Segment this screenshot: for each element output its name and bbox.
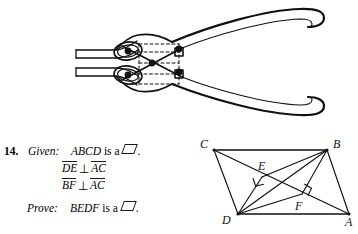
upper-handle-inner bbox=[182, 19, 312, 48]
pivot-dot-lower-left bbox=[125, 72, 132, 79]
given-condition-2: BF⊥AC bbox=[62, 178, 105, 192]
diagonal-BD bbox=[238, 150, 327, 214]
vertex-dot-D bbox=[236, 212, 239, 215]
parallelogram-svg: C B D A E F bbox=[196, 132, 358, 234]
prove-period: . bbox=[136, 202, 139, 214]
prove-is-a-text: is a bbox=[102, 202, 118, 214]
given-subject: ABCD bbox=[71, 145, 101, 157]
pivot-dot-upper-left bbox=[125, 48, 132, 55]
vertex-dot-C bbox=[212, 148, 215, 151]
segment-ac-1: AC bbox=[91, 161, 106, 174]
side-BA bbox=[327, 150, 349, 214]
upper-handle-outer bbox=[172, 9, 324, 42]
parallelogram-diagram: C B D A E F bbox=[196, 132, 358, 234]
perp-symbol-1: ⊥ bbox=[77, 162, 91, 176]
prove-statement: BEDF is a . bbox=[70, 202, 139, 214]
point-label-F: F bbox=[294, 199, 303, 213]
segment-FD bbox=[238, 194, 302, 214]
textbook-problem-page: 14. Given: ABCD is a . DE⊥AC BF⊥AC Prove… bbox=[0, 0, 358, 234]
altitude-BF bbox=[302, 150, 327, 194]
pivot-dot-upper-right bbox=[176, 46, 183, 53]
pliers-line-drawing bbox=[0, 0, 358, 118]
vertex-label-C: C bbox=[200, 137, 209, 151]
given-statement-line-1: ABCD is a . bbox=[71, 145, 140, 157]
segment-bf: BF bbox=[62, 178, 76, 191]
prove-label: Prove: bbox=[27, 202, 58, 214]
vertex-dot-B bbox=[325, 148, 328, 151]
given-is-a-text: is a bbox=[104, 145, 120, 157]
lower-handle-outer bbox=[172, 84, 324, 115]
perp-symbol-2: ⊥ bbox=[76, 179, 90, 193]
parallelogram-icon-2 bbox=[120, 201, 137, 211]
lower-handle-inner bbox=[182, 77, 312, 105]
given-condition-1: DE⊥AC bbox=[62, 161, 106, 175]
segment-de: DE bbox=[62, 161, 77, 174]
point-label-E: E bbox=[257, 159, 266, 173]
vertex-label-B: B bbox=[333, 137, 341, 151]
problem-number: 14. bbox=[4, 145, 18, 157]
pivot-dot-lower-right bbox=[176, 69, 183, 76]
pliers-svg bbox=[0, 0, 358, 118]
given-period: . bbox=[137, 145, 140, 157]
pivot-dot-center bbox=[149, 60, 156, 67]
parallelogram-icon bbox=[122, 144, 139, 154]
problem-statement-block: 14. Given: ABCD is a . DE⊥AC BF⊥AC Prove… bbox=[0, 140, 196, 234]
segment-ac-2: AC bbox=[90, 178, 105, 191]
given-label: Given: bbox=[28, 145, 59, 157]
vertex-label-D: D bbox=[221, 213, 231, 227]
vertex-label-A: A bbox=[344, 215, 353, 229]
prove-subject: BEDF bbox=[70, 202, 99, 214]
altitude-DE bbox=[238, 177, 262, 214]
